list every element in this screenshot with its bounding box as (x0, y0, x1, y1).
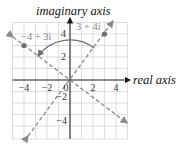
label-neg4-plus-3i: −4 + 3i (21, 31, 52, 42)
y-tick-2: 2 (61, 51, 66, 62)
rotation-arc-arrow (38, 40, 94, 56)
complex-plane-diagram: 3 + 4i −4 + 3i −4 −2 0 2 4 4 2 −2 −4 ima… (0, 0, 181, 150)
x-tick-2: 2 (91, 82, 96, 93)
imaginary-axis-title: imaginary axis (36, 4, 111, 18)
x-tick-neg4: −4 (19, 82, 30, 93)
point-neg4-plus-3i (21, 43, 26, 48)
point-3-plus-4i (102, 31, 107, 36)
x-tick-4: 4 (114, 82, 119, 93)
y-tick-neg4: −4 (56, 115, 67, 126)
real-axis-title: real axis (133, 73, 176, 87)
x-tick-neg2: −2 (42, 82, 53, 93)
label-3-plus-4i: 3 + 4i (76, 21, 101, 32)
y-tick-4: 4 (61, 28, 66, 39)
y-tick-neg2: −2 (56, 91, 67, 102)
